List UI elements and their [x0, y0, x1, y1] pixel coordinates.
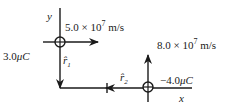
- velocity1-label: 5.0 × 107 m/s: [65, 22, 124, 33]
- x-axis-label: x: [179, 93, 184, 104]
- diagram-canvas: [0, 0, 241, 112]
- charge1-value: 3.0: [3, 50, 17, 62]
- charge2-label: −4.0μC: [160, 75, 193, 86]
- charge1-label: 3.0μC: [3, 51, 30, 62]
- velocity1-exponent: 7: [101, 19, 105, 28]
- charge2-symbol: [143, 82, 153, 92]
- charge1-symbol: [55, 37, 65, 47]
- r2-subscript: 2: [124, 78, 128, 86]
- charge2-unit: μC: [180, 74, 193, 86]
- r2-unit-vector-label: r̂2: [120, 72, 128, 86]
- r1-subscript: 1: [67, 61, 71, 69]
- r1-unit-vector-label: r̂1: [63, 55, 71, 69]
- velocity2-label: 8.0 × 107 m/s: [157, 40, 216, 51]
- velocity1-mantissa: 5.0 × 10: [65, 21, 101, 33]
- velocity2-exponent: 7: [193, 37, 197, 46]
- velocity2-mantissa: 8.0 × 10: [157, 39, 193, 51]
- velocity1-unit: m/s: [105, 21, 124, 33]
- y-axis-label: y: [47, 11, 52, 22]
- charge1-unit: μC: [17, 50, 30, 62]
- charge2-value: −4.0: [160, 74, 180, 86]
- velocity2-unit: m/s: [197, 39, 216, 51]
